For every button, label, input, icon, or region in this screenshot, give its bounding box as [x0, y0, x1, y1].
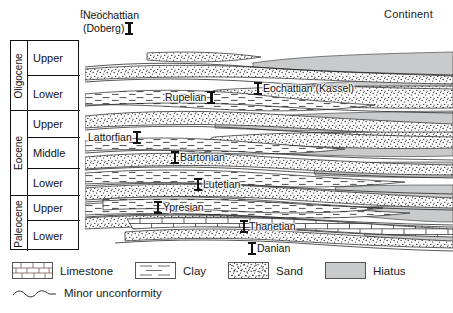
series-cell-oligocene-lower: Lower: [28, 76, 80, 111]
continent-label: Continent: [384, 8, 433, 20]
legend-item-hiatus: Hiatus: [325, 262, 406, 279]
epoch-label-oligocene-text: Oligocene: [14, 53, 24, 98]
clay-swatch-icon: [135, 262, 176, 279]
stage-label-bartonian-text: Bartonian: [180, 151, 225, 163]
thickness-bar-icon: [248, 242, 256, 255]
stage-label-danian: Danian: [247, 241, 290, 255]
thickness-bar-icon: [240, 220, 248, 233]
epoch-label-paleocene-text: Paleocene: [14, 200, 24, 247]
legend-item-clay: Clay: [135, 262, 206, 279]
series-cell-oligocene-upper: Upper: [28, 41, 80, 76]
stratigraphic-figure: Basin Continent Oligocene Upper Lower Eo…: [0, 0, 453, 313]
series-label: Upper: [28, 118, 63, 130]
stage-label-lutetian: Lutetian: [193, 177, 240, 191]
series-cell-paleocene-upper: Upper: [28, 196, 80, 221]
thickness-bar-icon: [125, 22, 133, 35]
legend-row-facies: Limestone Clay: [12, 262, 428, 279]
stage-label-rupelian-text: Rupelian: [165, 91, 206, 103]
thickness-bar-icon: [254, 82, 262, 95]
thickness-bar-icon: [133, 131, 141, 144]
wavy-line-icon: [12, 286, 57, 300]
epoch-label-eocene-text: Eocene: [14, 136, 24, 170]
stage-label-ypresian-text: Ypresian: [163, 201, 204, 213]
series-cell-eocene-lower: Lower: [28, 169, 80, 196]
legend-label-sand: Sand: [276, 265, 303, 277]
legend-label-limestone: Limestone: [60, 265, 113, 277]
limestone-swatch-icon: [12, 262, 53, 279]
stage-label-neochattian-line2: (Doberg): [83, 22, 124, 34]
series-label: Upper: [28, 52, 63, 64]
legend-label-clay: Clay: [183, 265, 206, 277]
stage-label-eochattian-text: Eochattian (Kassel): [263, 82, 354, 94]
legend-label-unconformity: Minor unconformity: [64, 287, 162, 299]
legend-item-unconformity: Minor unconformity: [12, 286, 162, 300]
stage-label-neochattian-line1: Neochattian: [83, 9, 139, 21]
thickness-bar-icon: [207, 91, 215, 104]
series-cell-eocene-middle: Middle: [28, 138, 80, 169]
epoch-group-oligocene: Oligocene Upper Lower: [11, 41, 80, 111]
stage-label-bartonian: Bartonian: [170, 150, 225, 164]
legend-label-hiatus: Hiatus: [373, 265, 406, 277]
stage-label-lattorfian-text: Lattorfian: [88, 131, 132, 143]
legend: Limestone Clay: [12, 262, 452, 308]
series-column-eocene: Upper Middle Lower: [28, 111, 80, 195]
stage-label-danian-text: Danian: [257, 242, 290, 254]
thickness-bar-icon: [194, 178, 202, 191]
stage-label-thanetian: Thanetian: [239, 219, 296, 233]
chronostratigraphic-column: Oligocene Upper Lower Eocene Upper: [10, 40, 79, 250]
thickness-bar-icon: [171, 151, 179, 164]
legend-item-limestone: Limestone: [12, 262, 113, 279]
cross-section-diagram: Neochattian (Doberg) Eochattian (Kassel)…: [85, 36, 453, 254]
legend-item-sand: Sand: [228, 262, 303, 279]
series-column-oligocene: Upper Lower: [28, 41, 80, 110]
series-label: Middle: [28, 147, 65, 159]
series-label: Lower: [28, 177, 63, 189]
series-label: Lower: [28, 230, 63, 242]
epoch-label-paleocene: Paleocene: [11, 196, 28, 251]
stage-label-lattorfian: Lattorfian: [88, 130, 142, 144]
stage-label-rupelian: Rupelian: [165, 90, 216, 104]
epoch-label-oligocene: Oligocene: [11, 41, 28, 110]
stage-label-ypresian: Ypresian: [153, 200, 204, 214]
series-cell-eocene-upper: Upper: [28, 111, 80, 138]
series-cell-paleocene-lower: Lower: [28, 221, 80, 251]
legend-row-unconformity: Minor unconformity: [12, 286, 184, 300]
series-label: Upper: [28, 202, 63, 214]
series-column-paleocene: Upper Lower: [28, 196, 80, 251]
thickness-bar-icon: [154, 201, 162, 214]
stage-label-eochattian: Eochattian (Kassel): [253, 81, 354, 95]
sand-neochattian: [147, 52, 261, 62]
series-label: Lower: [28, 88, 63, 100]
sand-swatch-icon: [228, 262, 269, 279]
hiatus-swatch-icon: [325, 262, 366, 279]
epoch-label-eocene: Eocene: [11, 111, 28, 195]
stage-label-lutetian-text: Lutetian: [203, 178, 240, 190]
stage-label-neochattian: Neochattian (Doberg): [83, 8, 139, 35]
stage-label-thanetian-text: Thanetian: [249, 220, 296, 232]
epoch-group-eocene: Eocene Upper Middle Lower: [11, 111, 80, 196]
epoch-group-paleocene: Paleocene Upper Lower: [11, 196, 80, 251]
